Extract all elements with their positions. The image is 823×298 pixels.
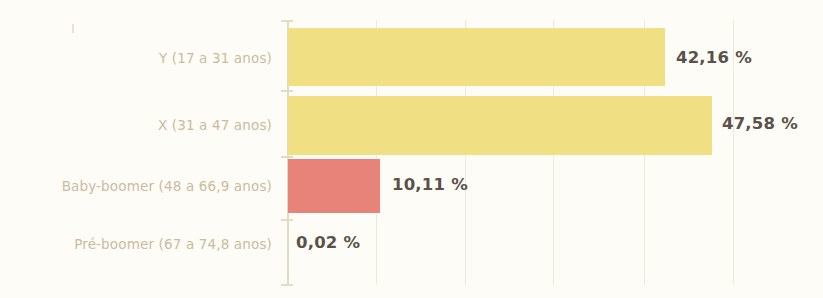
bar-x (288, 96, 712, 155)
category-label-x: X (31 a 47 anos) (158, 117, 272, 133)
axis-tick-2 (281, 156, 293, 158)
value-label-baby-boomer: 10,11 % (392, 175, 468, 194)
bar-baby-boomer (288, 159, 380, 213)
value-label-x: 47,58 % (722, 114, 798, 133)
value-label-pre-boomer: 0,02 % (296, 233, 360, 252)
horizontal-bar-chart: Y (17 a 31 anos) X (31 a 47 anos) Baby-b… (0, 0, 823, 298)
category-label-baby-boomer: Baby-boomer (48 a 66,9 anos) (62, 178, 272, 194)
axis-tick-4 (281, 284, 293, 286)
value-label-y: 42,16 % (676, 48, 752, 67)
scan-artifact-mark (72, 24, 74, 33)
axis-tick-3 (281, 219, 293, 221)
axis-tick-1 (281, 90, 293, 92)
axis-tick-0 (281, 20, 293, 22)
category-label-pre-boomer: Pré-boomer (67 a 74,8 anos) (74, 236, 272, 252)
category-label-y: Y (17 a 31 anos) (159, 50, 272, 66)
bar-y (288, 28, 665, 86)
